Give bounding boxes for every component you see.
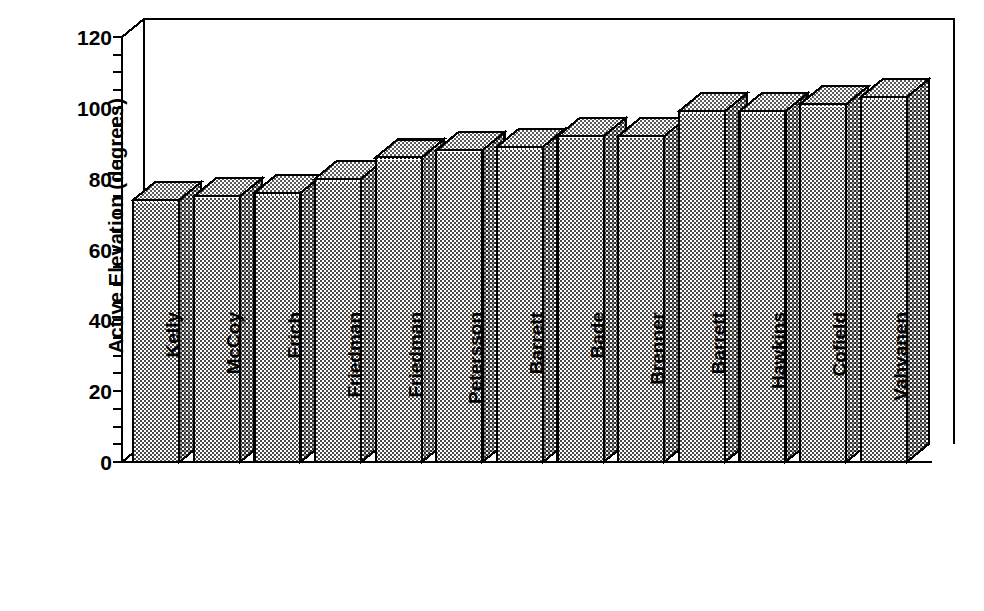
x-tick-label: Bade xyxy=(588,312,607,472)
x-tick-label-text: Barrett xyxy=(527,312,546,374)
bar-chart-figure: Active Elevation (degrees) 0204060801001… xyxy=(0,0,984,611)
x-tick-label: Barrett xyxy=(709,312,728,472)
x-tick-label: Barrett xyxy=(527,312,546,472)
x-tick-label-text: Friedman xyxy=(406,312,425,398)
x-tick-label: Kelly xyxy=(163,312,182,472)
x-tick-label: Hawkins xyxy=(769,312,788,472)
x-tick-label-text: Hawkins xyxy=(769,312,788,389)
x-tick-label-text: Petersson xyxy=(466,312,485,404)
x-tick-label-text: Bade xyxy=(588,312,607,358)
y-axis-ticks xyxy=(113,37,122,462)
x-tick-label-text: Barrett xyxy=(709,312,728,374)
x-tick-label: Frich xyxy=(285,312,304,472)
x-tick-label-text: Frich xyxy=(285,312,304,358)
x-tick-label: Cofield xyxy=(830,312,849,472)
x-tick-label: McCoy xyxy=(224,312,243,472)
x-tick-label-text: McCoy xyxy=(224,312,243,374)
x-tick-label-text: Kelly xyxy=(163,312,182,357)
x-tick-label: Vahvanen xyxy=(891,312,910,472)
x-tick-label-text: Friedman xyxy=(345,312,364,398)
x-tick-label: Petersson xyxy=(466,312,485,472)
x-tick-label: Friedman xyxy=(345,312,364,472)
x-tick-label-text: Vahvanen xyxy=(891,312,910,401)
x-tick-label: Brenner xyxy=(648,312,667,472)
plot-area xyxy=(0,0,984,611)
x-tick-label-text: Cofield xyxy=(830,312,849,376)
x-tick-label: Friedman xyxy=(406,312,425,472)
x-tick-label-text: Brenner xyxy=(648,312,667,385)
